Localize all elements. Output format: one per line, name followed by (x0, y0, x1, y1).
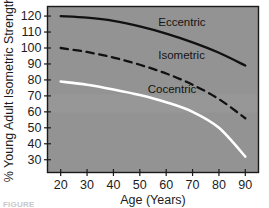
y-tick-label: 110 (22, 25, 42, 39)
y-tick-label: 70 (28, 89, 42, 103)
x-tick-label: 60 (159, 178, 173, 192)
x-tick-label: 80 (212, 178, 226, 192)
y-tick-label: 90 (28, 57, 42, 71)
y-tick-label: 30 (28, 153, 42, 167)
y-tick-label: 50 (28, 121, 42, 135)
series-label-isometric: Isometric (158, 49, 205, 61)
x-tick-label: 90 (238, 178, 252, 192)
y-axis-label: % Young Adult Isometric Strength (2, 0, 16, 182)
y-tick-label: 120 (21, 9, 42, 23)
y-tick-label: 60 (28, 105, 42, 119)
y-tick-label: 100 (21, 41, 42, 55)
figure-container: 304050607080901001101202030405060708090A… (0, 0, 269, 208)
x-tick-label: 70 (186, 178, 200, 192)
y-tick-label: 80 (28, 73, 42, 87)
series-label-cocentric: Cocentric (148, 83, 197, 95)
series-label-eccentric: Eccentric (158, 16, 206, 28)
x-tick-label: 40 (106, 178, 120, 192)
x-axis-label: Age (Years) (120, 193, 186, 207)
x-tick-label: 50 (133, 178, 147, 192)
x-tick-label: 30 (80, 178, 94, 192)
x-tick-label: 20 (54, 178, 68, 192)
y-tick-label: 40 (28, 137, 42, 151)
figure-caption: FIGURE (3, 199, 34, 208)
